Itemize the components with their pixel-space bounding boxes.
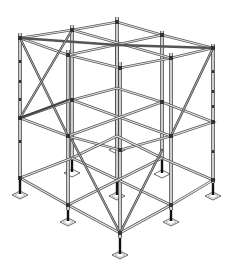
scaffold-diagram bbox=[0, 0, 226, 274]
base-plate-left-mid bbox=[60, 210, 76, 226]
base-plate-left bbox=[12, 180, 28, 199]
base-plate-front bbox=[112, 238, 128, 259]
scaffold-drawing bbox=[0, 0, 226, 274]
base-plate-right bbox=[205, 183, 221, 200]
base-plate-right-mid bbox=[163, 210, 179, 226]
